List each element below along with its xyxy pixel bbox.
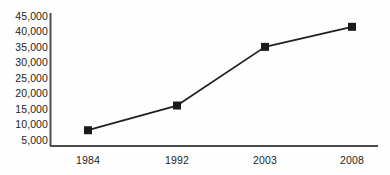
x-axis-tick-label: 1984 [76,155,100,166]
x-axis-tick-labels: 1984199220032008 [0,0,390,175]
x-axis-tick-label: 2008 [340,155,364,166]
x-axis-tick-label: 1992 [165,155,189,166]
x-axis-tick-label: 2003 [253,155,277,166]
line-chart: 45,00040,00035,00030,00025,00020,00015,0… [0,0,390,175]
